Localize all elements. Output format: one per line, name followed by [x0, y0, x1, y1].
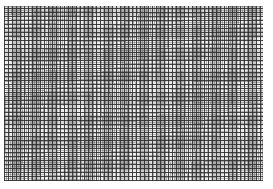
cropped-caption	[4, 183, 263, 189]
grid-mesh-image	[4, 6, 263, 181]
